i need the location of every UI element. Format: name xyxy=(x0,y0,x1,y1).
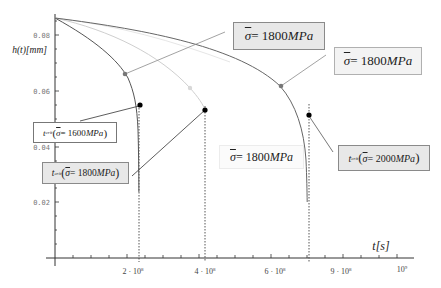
x-tick-label: 2 · 108 xyxy=(122,267,144,276)
subscript-crit: crit xyxy=(351,156,358,161)
point-2000-on-curve xyxy=(279,84,284,89)
x-tick-label: 6 · 108 xyxy=(264,267,286,276)
annotation-unit: MPa xyxy=(86,128,104,138)
y-tick-label: 0.06 xyxy=(33,88,50,96)
annotation-sigma-1800-top-center: σ = 1800 MPa xyxy=(233,22,325,50)
annotation-tcrit-2000: tcrit(σ = 2000MPa) xyxy=(338,145,430,171)
leader-tcrit-1600 xyxy=(80,106,139,121)
annotation-sigma-1800-top-right: σ = 1800MPa xyxy=(334,47,422,75)
annotation-unit: MPa xyxy=(396,153,415,164)
annotation-unit: MPa xyxy=(288,28,313,44)
annotation-sigma-1800-middle: σ = 1800 MPa xyxy=(219,145,304,169)
point-1800-on-curve xyxy=(188,86,192,90)
y-tick-label: 0.08 xyxy=(33,32,50,40)
annotation-unit: MPa xyxy=(97,168,115,178)
annotation-unit: MPa xyxy=(270,150,293,165)
leader-tcrit-1800 xyxy=(132,110,205,176)
point-tcrit-2000 xyxy=(306,112,311,117)
x-axis-title: t[s] xyxy=(372,239,390,253)
paren-close: ) xyxy=(103,127,107,139)
annotation-value: = 2000 xyxy=(368,153,396,164)
annotation-tcrit-1800: tcrit(σ = 1800 MPa) xyxy=(42,162,129,184)
x-tick-label: 9 · 108 xyxy=(330,267,352,276)
annotation-unit: MPa xyxy=(387,53,412,69)
y-tick-label: 0.02 xyxy=(33,199,50,207)
annotation-value: = 1800 xyxy=(350,53,387,69)
leader-tcrit-2000 xyxy=(309,116,333,152)
x-tick-label: 4 · 108 xyxy=(194,267,216,276)
x-ticks xyxy=(73,254,397,258)
curve-sigma-1800 xyxy=(55,18,206,112)
x-tick-label: 109 xyxy=(397,265,408,274)
point-tcrit-1600 xyxy=(137,102,142,107)
leader-top-center xyxy=(125,32,225,74)
y-axis-title: h(t)[mm] xyxy=(12,45,47,56)
subscript-crit: crit xyxy=(54,171,61,176)
annotation-value: = 1600 xyxy=(61,128,86,138)
chart-canvas: 0.08 0.06 0.04 0.02 2 · 108 4 · 108 6 · … xyxy=(0,0,441,288)
paren-close: ) xyxy=(415,150,419,166)
annotation-value: = 1800 xyxy=(70,168,97,178)
annotation-value: = 1800 xyxy=(251,28,288,44)
point-tcrit-1800 xyxy=(202,107,207,112)
y-tick-label: 0.04 xyxy=(33,144,50,152)
annotation-value: = 1800 xyxy=(236,150,270,165)
paren-close: ) xyxy=(115,166,119,181)
annotation-tcrit-1600: tcrit(σ = 1600 MPa) xyxy=(33,122,117,143)
point-1600-on-curve xyxy=(123,72,128,77)
leader-top-right xyxy=(281,55,326,86)
subscript-crit: crit xyxy=(45,130,52,135)
